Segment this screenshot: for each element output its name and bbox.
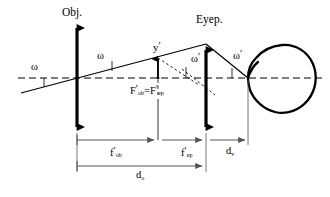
omega-angle-label-mid: ω <box>97 51 104 62</box>
objective-focal-length-sub: ob <box>116 152 122 158</box>
omega-prime-left-glyph: ω <box>191 53 198 64</box>
image-height-prime: ′ <box>159 40 161 51</box>
objective-focal-length-label: f′ob <box>110 146 122 158</box>
omega-prime-ticks <box>186 67 232 78</box>
eye-outline <box>248 45 316 113</box>
eye-relief-sub: v <box>231 151 234 157</box>
intermediate-image-arrow <box>157 59 160 79</box>
tube-length-sub: o <box>141 175 144 181</box>
omega-angle-label-left: ω <box>31 62 38 73</box>
incoming-ray <box>21 44 206 93</box>
eyepiece-label: Eyep. <box>196 14 223 26</box>
optical-diagram-figure: Obj. Eyep. ω ω ω′ ω′ y′ F′ob=F′ep f′ob f… <box>0 0 330 197</box>
omega-prime-right-mark: ′ <box>240 48 242 59</box>
eye-relief-label: dv <box>226 146 234 157</box>
objective-label: Obj. <box>62 7 82 19</box>
omega-prime-angle-label-eye: ω′ <box>233 49 242 61</box>
focal-point-label: F′ob=F′ep <box>130 84 164 96</box>
dimension-row-upper <box>77 135 245 145</box>
eyepiece-focal-length-sub: ep <box>187 152 193 158</box>
tube-length-label: do <box>136 170 144 181</box>
omega-prime-left-mark: ′ <box>198 51 200 62</box>
omega-prime-angle-label-eyepiece: ω′ <box>191 52 200 64</box>
omega-prime-right-glyph: ω <box>233 50 240 61</box>
focal-point-sub-ep: ep <box>158 90 164 96</box>
image-height-label: y′ <box>153 41 161 53</box>
focal-point-equals: =F <box>144 85 156 96</box>
eyepiece-focal-length-label: f′ep <box>181 146 192 158</box>
diagram-canvas <box>0 0 330 197</box>
